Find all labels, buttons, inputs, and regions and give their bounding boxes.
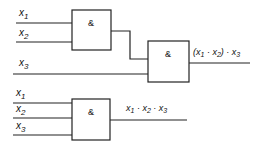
gate1-label: &	[88, 18, 94, 28]
and-gate-2	[148, 41, 189, 82]
and-gate-3	[72, 99, 110, 140]
and-gate-1	[72, 10, 111, 50]
gate3-label: &	[88, 107, 94, 117]
output-expression-top: (x1 · x2) · x3	[193, 47, 240, 58]
input-x2-bottom: x2	[15, 103, 26, 117]
input-x1-top: x1	[18, 7, 28, 21]
input-x3-top: x3	[18, 57, 29, 71]
wire-gate1-to-gate2	[111, 31, 148, 59]
logic-gate-diagram: & & & x1 x2 x3 (x1 · x2) · x3 x1 x2 x3 x…	[0, 0, 263, 143]
input-x3-bottom: x3	[15, 120, 26, 134]
output-expression-bottom: x1 · x2 · x3	[125, 103, 167, 114]
input-x2-top: x2	[18, 27, 29, 41]
input-x1-bottom: x1	[15, 87, 25, 101]
gate2-label: &	[165, 49, 171, 59]
